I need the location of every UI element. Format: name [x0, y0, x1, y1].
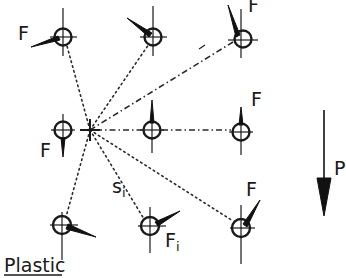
force-arrow-icon	[150, 100, 154, 123]
force-arrow-icon	[155, 211, 180, 226]
force-arrow-icon	[243, 200, 260, 227]
load-arrow-p	[317, 110, 331, 216]
fastener-top-left	[31, 8, 77, 56]
load-label-p: P	[334, 157, 345, 179]
distance-label-si: si	[112, 175, 126, 200]
fastener-top-middle	[127, 6, 167, 56]
fastener-group-diagram: F F F F	[0, 0, 346, 278]
force-label-middle-right: F	[251, 88, 262, 110]
force-label-top-right: F	[248, 0, 259, 16]
distance-line-top-right	[90, 42, 233, 130]
fastener-bottom-right	[230, 200, 260, 264]
centroid-cross-icon	[80, 119, 100, 141]
fastener-middle-right	[229, 107, 253, 155]
material-label: Plastic	[4, 254, 65, 276]
distance-line-bottom-left	[66, 130, 90, 217]
force-arrow-icon	[228, 5, 240, 37]
force-label-middle-left: F	[40, 139, 51, 161]
force-label-fi: Fi	[165, 229, 180, 254]
force-arrow-icon	[239, 107, 243, 125]
force-arrow-icon	[66, 224, 96, 237]
fastener-bottom-left	[50, 212, 96, 260]
force-label-bottom-right: F	[246, 178, 257, 200]
distance-line-top-left	[67, 46, 90, 130]
force-label-top-left: F	[18, 22, 29, 44]
distance-line-top-middle	[90, 44, 149, 130]
force-arrow-icon	[61, 138, 65, 157]
distance-lines	[66, 42, 233, 221]
force-arrow-icon	[127, 18, 152, 37]
fastener-middle-middle	[140, 100, 164, 153]
fastener-middle-left	[51, 114, 75, 157]
force-arrow-icon	[31, 36, 60, 47]
arrow-down-icon	[317, 178, 331, 216]
tick-mark	[199, 45, 205, 49]
